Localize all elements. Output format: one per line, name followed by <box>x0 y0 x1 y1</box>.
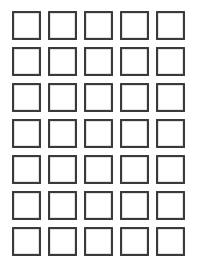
grid-cell[interactable] <box>12 191 41 220</box>
square-grid-sheet <box>0 0 198 276</box>
square-grid <box>12 11 185 256</box>
grid-cell[interactable] <box>120 83 149 112</box>
grid-cell[interactable] <box>48 119 77 148</box>
grid-cell[interactable] <box>84 227 113 256</box>
grid-cell[interactable] <box>48 11 77 40</box>
grid-cell[interactable] <box>12 119 41 148</box>
grid-cell[interactable] <box>120 155 149 184</box>
grid-cell[interactable] <box>48 191 77 220</box>
grid-cell[interactable] <box>84 119 113 148</box>
grid-cell[interactable] <box>120 227 149 256</box>
grid-cell[interactable] <box>84 83 113 112</box>
grid-cell[interactable] <box>48 155 77 184</box>
grid-cell[interactable] <box>156 191 185 220</box>
grid-cell[interactable] <box>156 119 185 148</box>
grid-cell[interactable] <box>156 227 185 256</box>
grid-cell[interactable] <box>156 11 185 40</box>
grid-cell[interactable] <box>120 11 149 40</box>
grid-cell[interactable] <box>12 11 41 40</box>
grid-cell[interactable] <box>120 119 149 148</box>
grid-cell[interactable] <box>156 83 185 112</box>
grid-cell[interactable] <box>84 155 113 184</box>
grid-cell[interactable] <box>120 191 149 220</box>
grid-cell[interactable] <box>84 191 113 220</box>
grid-cell[interactable] <box>156 155 185 184</box>
grid-cell[interactable] <box>84 47 113 76</box>
grid-cell[interactable] <box>12 227 41 256</box>
grid-cell[interactable] <box>48 227 77 256</box>
grid-cell[interactable] <box>48 47 77 76</box>
grid-cell[interactable] <box>12 83 41 112</box>
grid-cell[interactable] <box>12 47 41 76</box>
grid-cell[interactable] <box>120 47 149 76</box>
grid-cell[interactable] <box>156 47 185 76</box>
grid-cell[interactable] <box>48 83 77 112</box>
grid-cell[interactable] <box>12 155 41 184</box>
grid-cell[interactable] <box>84 11 113 40</box>
